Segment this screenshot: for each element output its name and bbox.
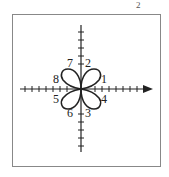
- x-axis: [20, 85, 153, 93]
- petal-upper-left: [61, 69, 81, 89]
- label-6: 6: [67, 106, 73, 120]
- rose-curve-diagram: 1 2 3 4 5 6 7 8: [0, 0, 169, 177]
- label-7: 7: [67, 56, 73, 70]
- label-2: 2: [85, 56, 91, 70]
- arrow-right-icon: [143, 85, 153, 93]
- point-labels: 1 2 3 4 5 6 7 8: [53, 56, 107, 120]
- label-1: 1: [101, 72, 107, 86]
- label-5: 5: [53, 92, 59, 106]
- label-8: 8: [53, 72, 59, 86]
- label-3: 3: [85, 106, 91, 120]
- label-4: 4: [101, 92, 107, 106]
- petal-upper-right: [81, 69, 101, 89]
